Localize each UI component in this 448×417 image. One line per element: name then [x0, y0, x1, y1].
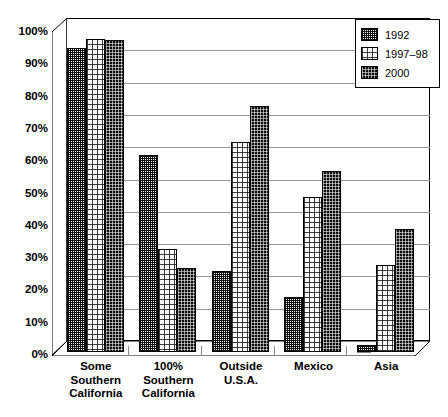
y-axis-tick-label: 90%: [2, 59, 48, 71]
x-axis-group-separator: [274, 346, 275, 356]
bar-front-face: [357, 345, 376, 351]
bar-front-face: [376, 265, 395, 352]
bar-front-face: [139, 155, 158, 352]
bar-front-face: [395, 229, 414, 352]
bar-front-face: [105, 40, 124, 352]
bar-front-face: [67, 48, 86, 352]
y-axis-tick-label: 10%: [2, 317, 48, 329]
bar: [86, 39, 105, 352]
legend-label: 2000: [385, 67, 409, 79]
x-axis-tick-label-line: U.S.A.: [193, 374, 289, 388]
legend: 19921997–982000: [355, 19, 440, 88]
y-axis-tick-label: 30%: [2, 252, 48, 264]
bar: [357, 345, 376, 351]
bar: [212, 271, 231, 352]
bar-front-face: [303, 197, 322, 352]
bar-front-face: [86, 39, 105, 352]
bar-front-face: [158, 249, 177, 352]
y-axis: 0%10%20%30%40%50%60%70%80%90%100%: [0, 0, 48, 417]
y-axis-tick-label: 40%: [2, 220, 48, 232]
bar: [105, 40, 124, 352]
bar-chart: 0%10%20%30%40%50%60%70%80%90%100% 199219…: [0, 0, 448, 417]
legend-swatch: [361, 28, 378, 41]
bar: [158, 249, 177, 352]
bar-front-face: [177, 268, 196, 352]
x-axis-tick-label: Asia: [338, 360, 434, 374]
y-axis-tick-label: 70%: [2, 123, 48, 135]
bar: [322, 171, 341, 352]
y-axis-tick-label: 60%: [2, 155, 48, 167]
legend-swatch: [361, 47, 378, 60]
bar: [303, 197, 322, 352]
bar-front-face: [212, 271, 231, 352]
legend-item: 2000: [361, 63, 435, 82]
bar-front-face: [231, 142, 250, 352]
bar: [284, 297, 303, 352]
bar: [139, 155, 158, 352]
x-axis: SomeSouthernCalifornia100%SouthernCalifo…: [52, 360, 444, 416]
legend-label: 1992: [385, 29, 409, 41]
y-axis-tick-label: 0%: [2, 349, 48, 361]
bar: [250, 106, 269, 351]
y-axis-tick-label: 20%: [2, 285, 48, 297]
bar: [376, 265, 395, 352]
legend-item: 1997–98: [361, 44, 435, 63]
bar-front-face: [284, 297, 303, 352]
y-axis-tick-label: 100%: [2, 26, 48, 38]
y-axis-tick-label: 50%: [2, 188, 48, 200]
bar: [395, 229, 414, 352]
y-axis-tick-label: 80%: [2, 91, 48, 103]
bar: [177, 268, 196, 352]
bar-front-face: [250, 106, 269, 351]
legend-label: 1997–98: [385, 48, 428, 60]
x-axis-tick-label-line: California: [120, 387, 216, 401]
bar-front-face: [322, 171, 341, 352]
bar: [231, 142, 250, 352]
x-axis-group-separator: [201, 346, 202, 356]
legend-item: 1992: [361, 25, 435, 44]
x-axis-group-separator: [128, 346, 129, 356]
bar: [67, 48, 86, 352]
x-axis-tick-label-line: Asia: [338, 360, 434, 374]
x-axis-group-separator: [346, 346, 347, 356]
legend-swatch: [361, 66, 378, 79]
